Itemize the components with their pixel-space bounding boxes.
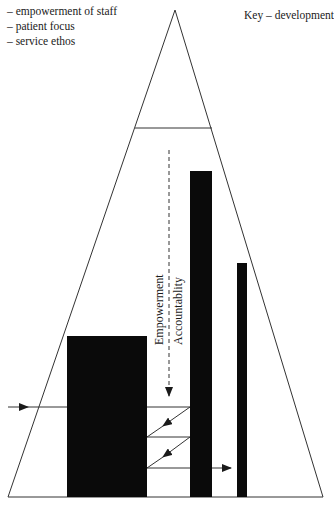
accountability-label: Accountablity <box>171 277 185 345</box>
tall-bar <box>190 171 212 497</box>
diagonal-line-2 <box>147 457 163 468</box>
left-block <box>67 336 147 497</box>
diagonal-arrow-2 <box>163 437 190 457</box>
diagonal-line-1 <box>147 426 163 437</box>
thin-bar <box>237 263 247 497</box>
diagonal-arrow-1 <box>163 407 190 426</box>
empowerment-label: Empowerment <box>152 274 166 345</box>
